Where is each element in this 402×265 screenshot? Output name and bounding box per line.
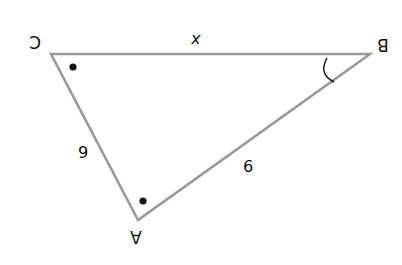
angle-a-dot-mark <box>139 197 146 204</box>
side-label-ab: 9 <box>243 157 253 173</box>
angle-c-dot-mark <box>69 63 76 70</box>
triangle-abc <box>51 54 370 220</box>
side-label-ca: 6 <box>78 143 88 159</box>
vertex-label-b: B <box>377 36 389 53</box>
side-label-cb: x <box>191 32 200 48</box>
vertex-label-c: C <box>29 33 41 50</box>
vertex-label-a: A <box>130 228 142 245</box>
triangle-diagram <box>0 0 402 265</box>
angle-b-arc-mark <box>324 58 334 82</box>
